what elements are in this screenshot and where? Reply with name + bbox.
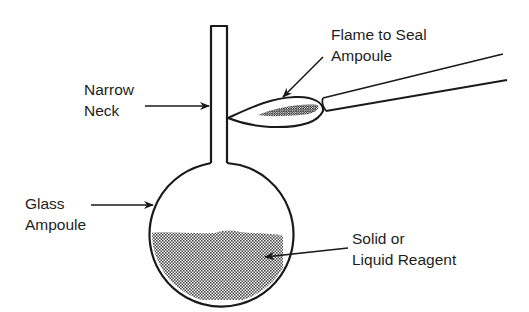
reagent-label-line2: Liquid Reagent [352, 249, 456, 270]
flame-label-line1: Flame to Seal [331, 24, 427, 45]
reagent-label: Solid or Liquid Reagent [352, 228, 456, 270]
reagent-fill [150, 231, 283, 300]
glass-ampoule-label-line1: Glass [25, 193, 86, 214]
glass-ampoule-label-line2: Ampoule [25, 214, 86, 235]
narrow-neck-label-line2: Neck [84, 100, 134, 121]
reagent-label-line1: Solid or [352, 228, 456, 249]
flame [228, 97, 323, 127]
flame-arrow [283, 57, 323, 97]
narrow-neck-label: Narrow Neck [84, 79, 134, 121]
bulb-outline [211, 26, 227, 163]
flame-label: Flame to Seal Ampoule [331, 24, 427, 66]
flame-label-line2: Ampoule [331, 45, 427, 66]
glass-ampoule-label: Glass Ampoule [25, 193, 86, 235]
narrow-neck-label-line1: Narrow [84, 79, 134, 100]
